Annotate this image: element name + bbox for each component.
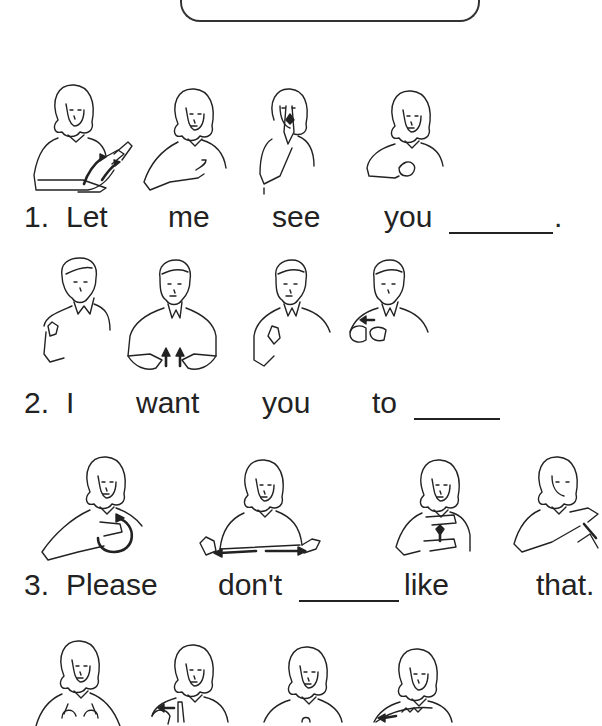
sentence-1-word-me: me	[168, 202, 210, 232]
sentence-2-word-to: to	[372, 388, 397, 418]
sentence-1-blank[interactable]	[449, 232, 553, 234]
sentence-2-word-want: want	[136, 388, 199, 418]
sentence-1-word-let: Let	[66, 202, 108, 232]
sign-illustration-i	[36, 254, 116, 364]
sentence-2-blank[interactable]	[414, 418, 500, 420]
sign-illustration-see	[258, 84, 328, 194]
sentence-1-word-see: see	[272, 202, 320, 232]
sign-illustration-row4-2	[148, 640, 238, 725]
sign-illustration-let	[28, 80, 138, 195]
sentence-1-period: .	[554, 202, 562, 232]
sign-illustration-me	[140, 84, 235, 194]
sign-illustration-want	[120, 256, 225, 386]
sign-illustration-dont	[196, 455, 326, 565]
sentence-1-word-you: you	[384, 202, 432, 232]
sign-illustration-like	[394, 455, 479, 565]
sign-illustration-you	[365, 86, 450, 186]
sentence-3-blank[interactable]	[299, 600, 399, 602]
sign-illustration-to	[348, 256, 433, 346]
sign-illustration-you-2	[250, 256, 335, 371]
sign-illustration-please	[38, 452, 143, 562]
sentence-3-word-that: that.	[536, 570, 594, 600]
sentence-2-number: 2.	[24, 388, 49, 418]
sign-illustration-row4-1	[34, 636, 129, 726]
sentence-1-number: 1.	[24, 202, 49, 232]
sign-illustration-row4-3	[262, 642, 347, 724]
sentence-3-number: 3.	[24, 570, 49, 600]
sentence-2-word-you: you	[262, 388, 310, 418]
sign-illustration-row4-4	[372, 644, 457, 724]
sign-illustration-that	[512, 452, 602, 562]
title-box	[180, 0, 480, 22]
sentence-3-word-dont: don't	[218, 570, 282, 600]
sentence-2-word-i: I	[66, 388, 74, 418]
sentence-3-word-like: like	[404, 570, 449, 600]
sentence-3-word-please: Please	[66, 570, 158, 600]
